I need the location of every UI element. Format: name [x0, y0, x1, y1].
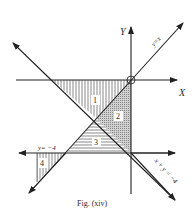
x-axis-label: X: [178, 87, 186, 98]
region-label-3: 3: [94, 138, 98, 147]
region-label-4: 4: [40, 159, 44, 168]
region-diagram: Y X y=x y= −4 x + y = −4 1 2 3 4 Fig. (x…: [0, 0, 196, 209]
region-label-2: 2: [116, 112, 120, 121]
line-label-y-equals-minus-4: y= −4: [37, 144, 56, 152]
region-label-1: 1: [93, 96, 97, 105]
figure-caption: Fig. (xiv): [77, 199, 108, 208]
y-axis-label: Y: [120, 26, 127, 37]
